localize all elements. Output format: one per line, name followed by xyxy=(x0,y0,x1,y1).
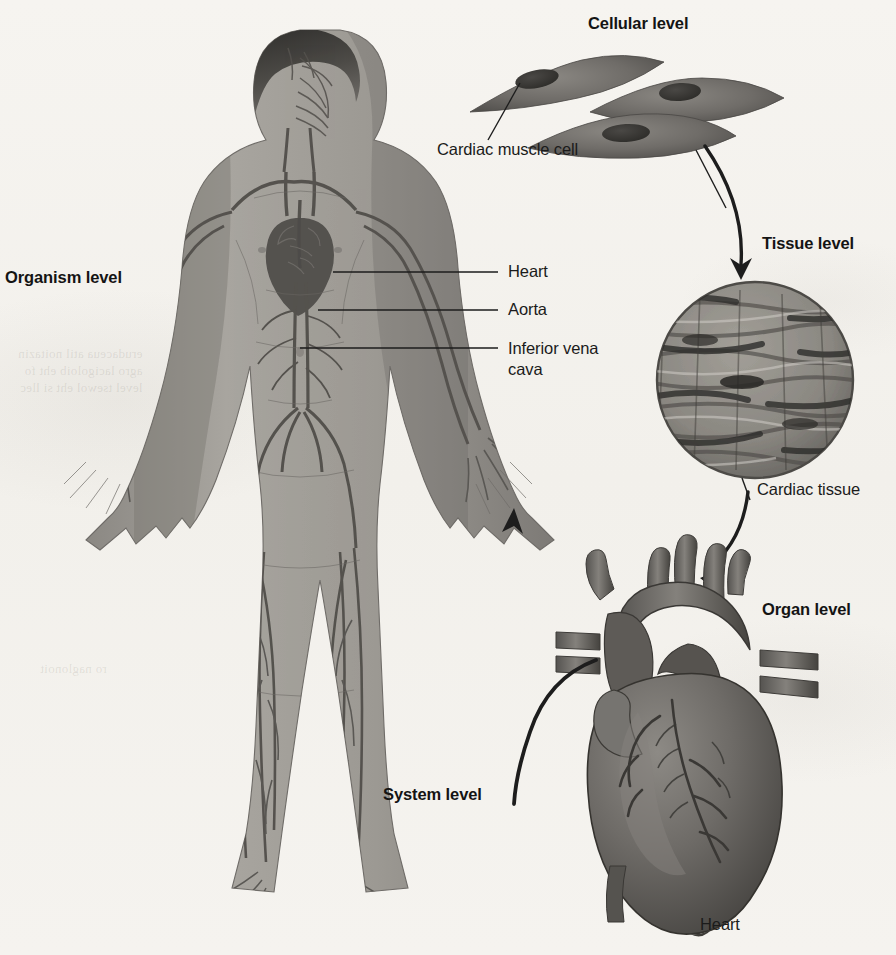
caption-heart-organ: Heart xyxy=(700,915,740,934)
level-title-cellular: Cellular level xyxy=(588,14,688,33)
cell-label-leader xyxy=(488,83,520,140)
arrow-organ-to-organism xyxy=(502,508,596,804)
figure-canvas: erudaceua atil noitazin agro lacigoloib … xyxy=(0,0,896,955)
anatomy-label-heart: Heart xyxy=(508,262,548,281)
cardiac-muscle-cells xyxy=(470,55,784,208)
heart-organ-illustration xyxy=(556,535,818,937)
cardiac-tissue-micrograph xyxy=(648,282,886,500)
level-title-tissue: Tissue level xyxy=(762,234,854,253)
cell-to-arrow-leader xyxy=(696,150,726,208)
caption-cardiac-tissue: Cardiac tissue xyxy=(757,480,860,499)
level-title-organ: Organ level xyxy=(762,600,851,619)
arrow-cells-to-tissue xyxy=(705,146,752,280)
caption-cardiac-muscle-cell: Cardiac muscle cell xyxy=(437,140,578,159)
anatomy-label-inferior-vena-cava: Inferior vena cava xyxy=(508,338,618,380)
anatomy-label-aorta: Aorta xyxy=(508,300,547,319)
level-title-system: System level xyxy=(383,785,482,804)
level-title-organism: Organism level xyxy=(5,268,122,287)
